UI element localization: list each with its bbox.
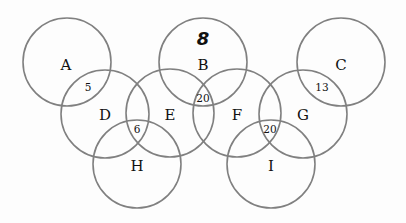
circle-label-g: G [297,106,309,124]
circle-label-f: F [232,106,242,124]
diagram-canvas: ABCDEFGHI 52013620 8 [0,0,406,223]
intersection-count: 20 [263,123,276,135]
circle-label-b: B [197,56,208,74]
intersection-count: 6 [134,123,141,135]
intersection-count: 5 [85,81,92,93]
circle-label-i: I [268,157,274,175]
venn-diagram: ABCDEFGHI 52013620 8 [0,0,406,223]
circle-label-e: E [165,106,176,124]
circle-label-a: A [60,56,72,74]
circle-label-h: H [130,157,143,175]
intersection-count: 13 [315,81,328,93]
circle-label-c: C [335,56,346,74]
handwritten-annotation: 8 [197,28,210,49]
intersection-count: 20 [196,92,209,104]
annotation-layer: 8 [197,28,210,49]
circle-label-d: D [99,106,111,124]
